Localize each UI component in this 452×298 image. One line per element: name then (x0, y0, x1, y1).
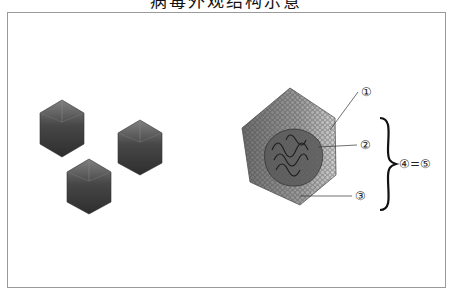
label-equation: ④=⑤ (399, 157, 431, 171)
label-2: ② (360, 138, 371, 152)
nucleic-acid-core (265, 129, 323, 186)
leader-line-1 (330, 92, 358, 130)
virus-particle-3 (67, 159, 111, 214)
label-1: ① (361, 85, 372, 99)
curly-brace (380, 118, 396, 210)
label-3: ③ (355, 189, 366, 203)
virus-particle-2 (118, 120, 162, 175)
virus-particle-1 (40, 100, 84, 157)
diagram-canvas (0, 0, 452, 298)
